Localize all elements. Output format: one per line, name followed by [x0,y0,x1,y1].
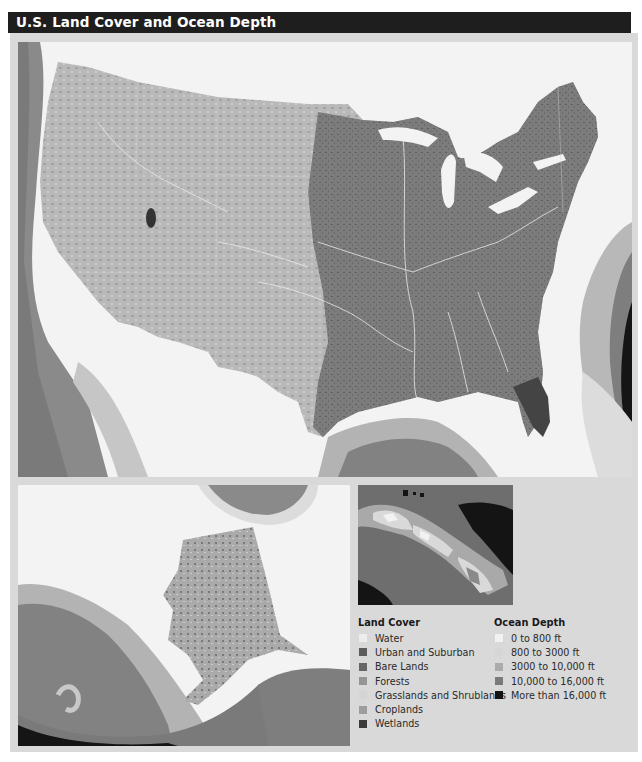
legend-ocean-depth: Ocean Depth 0 to 800 ft 800 to 3000 ft 3… [494,617,606,702]
legend-item-label: 3000 to 10,000 ft [511,661,595,672]
map-title: U.S. Land Cover and Ocean Depth [8,12,631,33]
legend-item-wetlands: Wetlands [358,717,506,731]
legend-item-water: Water [358,631,506,645]
legend-item-depth-10000-16000: 10,000 to 16,000 ft [494,674,606,688]
legend-item-grasslands: Grasslands and Shrublands [358,688,506,702]
legend-ocean-depth-title: Ocean Depth [494,617,606,628]
legend-item-depth-16000-plus: More than 16,000 ft [494,688,606,702]
legend-item-label: 0 to 800 ft [511,633,561,644]
alaska-map-graphic [18,485,350,746]
alaska-map[interactable] [18,485,350,746]
legend-item-label: Croplands [375,704,423,715]
forests-swatch [359,677,367,685]
legend-item-label: Bare Lands [375,661,429,672]
legend-land-cover: Land Cover Water Urban and Suburban Bare… [358,617,506,731]
depth-800-3000-swatch [495,648,503,656]
legend-item-label: 10,000 to 16,000 ft [511,676,604,687]
legend-item-croplands: Croplands [358,702,506,716]
legend-item-label: Forests [375,676,409,687]
legend-item-bare-lands: Bare Lands [358,660,506,674]
depth-16000-plus-swatch [495,691,503,699]
depth-3000-10000-swatch [495,663,503,671]
contiguous-us-map-graphic [18,42,632,477]
urban-swatch [359,648,367,656]
water-swatch [359,634,367,642]
legend-item-label: Wetlands [375,718,419,729]
hawaii-map-graphic [358,485,513,605]
contiguous-us-map[interactable] [18,42,632,477]
legend-item-depth-3000-10000: 3000 to 10,000 ft [494,660,606,674]
bare-lands-swatch [359,663,367,671]
legend-item-label: 800 to 3000 ft [511,647,579,658]
wetlands-swatch [359,720,367,728]
legend-item-depth-0-800: 0 to 800 ft [494,631,606,645]
legend-item-depth-800-3000: 800 to 3000 ft [494,645,606,659]
legend-item-forests: Forests [358,674,506,688]
depth-10000-16000-swatch [495,677,503,685]
grasslands-swatch [359,691,367,699]
hawaii-map[interactable] [358,485,513,605]
legend-land-cover-title: Land Cover [358,617,506,628]
legend-item-label: Urban and Suburban [375,647,475,658]
depth-0-800-swatch [495,634,503,642]
croplands-swatch [359,706,367,714]
legend-item-label: Grasslands and Shrublands [375,690,506,701]
legend-item-urban: Urban and Suburban [358,645,506,659]
legend-item-label: More than 16,000 ft [511,690,606,701]
legend-item-label: Water [375,633,403,644]
